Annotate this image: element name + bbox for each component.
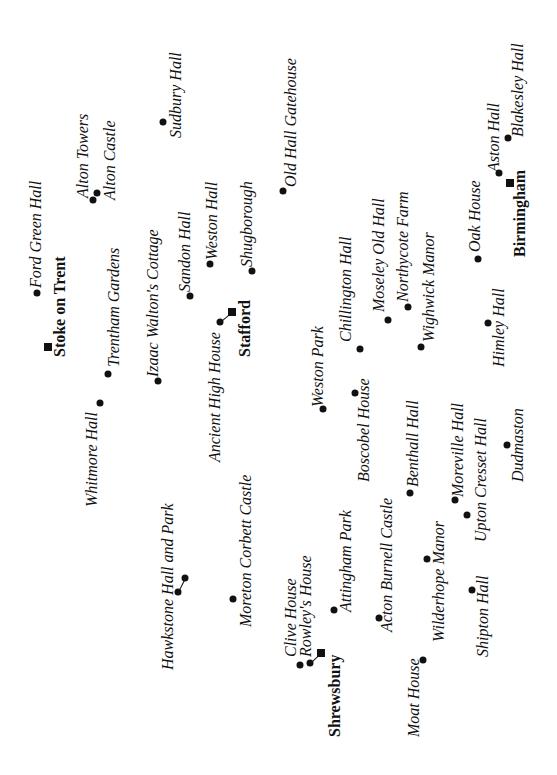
rowley-s-house-label: Rowley's House bbox=[298, 555, 314, 657]
upton-cresset-hall-label: Upton Cresset Hall bbox=[473, 418, 489, 542]
aston-hall-label: Aston Hall bbox=[486, 103, 502, 172]
alton-castle-label: Alton Castle bbox=[102, 120, 118, 200]
moreville-hall-marker-icon bbox=[452, 497, 459, 504]
stoke-on-trent-town-label: Stoke on Trent bbox=[52, 257, 68, 357]
moreton-corbett-castle-label: Moreton Corbett Castle bbox=[238, 475, 254, 627]
ancient-high-house-label: Ancient High House bbox=[207, 332, 223, 462]
sudbury-hall-label: Sudbury Hall bbox=[168, 52, 184, 138]
hawkstone-hall-and-park-label: Hawkstone Hall and Park bbox=[160, 503, 176, 670]
oak-house-marker-icon bbox=[475, 256, 482, 263]
chillington-hall-marker-icon bbox=[357, 346, 364, 353]
map-canvas: Ford Green HallAlton TowersAlton CastleS… bbox=[0, 0, 557, 775]
sandon-hall-marker-icon bbox=[187, 293, 194, 300]
old-hall-gatehouse-label: Old Hall Gatehouse bbox=[283, 58, 299, 187]
izaac-walton-s-cottage-marker-icon bbox=[155, 378, 162, 385]
boscobel-house-label: Boscobel House bbox=[356, 378, 372, 482]
stafford-town-label: Stafford bbox=[237, 300, 253, 357]
benthall-hall-label: Benthall Hall bbox=[405, 400, 421, 487]
moreton-corbett-castle-marker-icon bbox=[230, 596, 237, 603]
ford-green-hall-label: Ford Green Hall bbox=[28, 181, 44, 288]
attingham-park-label: Attingham Park bbox=[338, 510, 354, 612]
moseley-old-hall-label: Moseley Old Hall bbox=[371, 198, 387, 312]
wilderhope-manor-label: Wilderhope Manor bbox=[431, 521, 447, 642]
ancient-high-house-marker-icon bbox=[217, 319, 224, 326]
oak-house-label: Oak House bbox=[467, 180, 483, 252]
ford-green-hall-marker-icon bbox=[34, 290, 41, 297]
himley-hall-label: Himley Hall bbox=[491, 288, 507, 367]
wighwick-manor-marker-icon bbox=[418, 344, 425, 351]
whitmore-hall-label: Whitmore Hall bbox=[84, 412, 100, 507]
acton-burnell-castle-label: Acton Burnell Castle bbox=[379, 498, 395, 632]
trentham-gardens-label: Trentham Gardens bbox=[106, 248, 122, 367]
birmingham-town-label: Birmingham bbox=[512, 170, 528, 257]
trentham-gardens-marker-icon bbox=[105, 371, 112, 378]
moseley-old-hall-marker-icon bbox=[385, 317, 392, 324]
northycote-farm-marker-icon bbox=[405, 304, 412, 311]
weston-park-label: Weston Park bbox=[310, 326, 326, 407]
hawkstone-hall-and-park-marker-icon bbox=[182, 575, 189, 582]
old-hall-gatehouse-marker-icon bbox=[280, 188, 287, 195]
moreville-hall-label: Moreville Hall bbox=[450, 403, 466, 497]
wighwick-manor-label: Wighwick Manor bbox=[421, 232, 437, 342]
stafford-town-square-icon bbox=[228, 308, 236, 316]
sandon-hall-label: Sandon Hall bbox=[177, 212, 193, 292]
benthall-hall-marker-icon bbox=[407, 490, 414, 497]
shipton-hall-label: Shipton Hall bbox=[475, 576, 491, 657]
moat-house-label: Moat House bbox=[406, 658, 422, 737]
izaac-walton-s-cottage-label: Izaac Walton's Cottage bbox=[145, 229, 161, 377]
shugborough-marker-icon bbox=[249, 268, 256, 275]
shrewsbury-town-label: Shrewsbury bbox=[327, 655, 343, 737]
alton-castle-marker-icon bbox=[94, 190, 101, 197]
dudmaston-label: Dudmaston bbox=[510, 408, 526, 482]
whitmore-hall-marker-icon bbox=[97, 400, 104, 407]
blakesley-hall-label: Blakesley Hall bbox=[510, 43, 526, 137]
rowley-s-house-marker-icon bbox=[307, 660, 314, 667]
weston-hall-marker-icon bbox=[207, 261, 214, 268]
upton-cresset-hall-marker-icon bbox=[464, 512, 471, 519]
sudbury-hall-marker-icon bbox=[160, 119, 167, 126]
chillington-hall-label: Chillington Hall bbox=[338, 237, 354, 342]
clive-house-marker-icon bbox=[297, 662, 304, 669]
northycote-farm-label: Northycote Farm bbox=[395, 191, 411, 302]
weston-hall-label: Weston Hall bbox=[204, 182, 220, 260]
shugborough-label: Shugborough bbox=[239, 181, 255, 267]
shrewsbury-town-square-icon bbox=[317, 649, 325, 657]
alton-towers-label: Alton Towers bbox=[75, 114, 91, 198]
